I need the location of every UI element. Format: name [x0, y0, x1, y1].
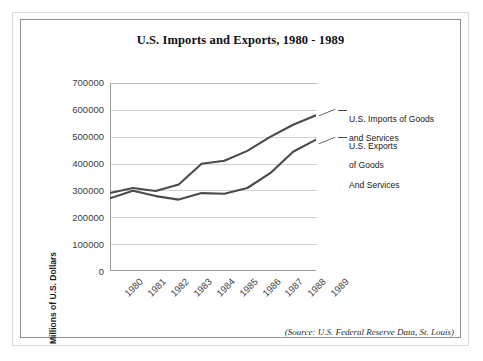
x-tick-label: 1988	[305, 276, 328, 299]
legend-label-exports-line2: of Goods	[349, 161, 441, 171]
y-tick-label: 500000	[46, 132, 104, 142]
legend-label-imports-line1: U.S. Imports of Goods	[349, 115, 441, 125]
x-axis-tick-labels: 1980 1981 1982 1983 1984 1985 1986 1987 …	[110, 276, 340, 316]
y-tick-label: 600000	[46, 105, 104, 115]
x-tick-label: 1981	[145, 276, 168, 299]
imports-line	[110, 115, 316, 193]
x-tick-label: 1986	[260, 276, 283, 299]
cropped-page-text	[300, 0, 420, 6]
y-tick-label: 0	[46, 267, 104, 277]
x-tick-label: 1983	[191, 276, 214, 299]
y-tick-label: 300000	[46, 186, 104, 196]
x-tick-label: 1980	[122, 276, 145, 299]
y-tick-label: 700000	[46, 78, 104, 88]
y-tick-label: 400000	[46, 159, 104, 169]
exports-line	[110, 140, 316, 200]
exports-legend-marker-icon	[338, 137, 347, 138]
imports-legend-marker-icon	[338, 110, 347, 111]
legend-label-exports: U.S. Exports of Goods And Services	[349, 132, 441, 201]
x-tick-label: 1985	[237, 276, 260, 299]
series-lines	[110, 83, 316, 272]
legend-label-exports-line1: U.S. Exports	[349, 142, 441, 152]
source-note: (Source: U.S. Federal Reserve Data, St. …	[20, 327, 454, 337]
x-tick-label: 1982	[168, 276, 191, 299]
chart-title: U.S. Imports and Exports, 1980 - 1989	[20, 33, 461, 48]
y-tick-label: 100000	[46, 240, 104, 250]
y-tick-label: 200000	[46, 213, 104, 223]
x-tick-label: 1984	[214, 276, 237, 299]
legend-label-exports-line3: And Services	[349, 181, 441, 191]
x-tick-label: 1987	[282, 276, 305, 299]
